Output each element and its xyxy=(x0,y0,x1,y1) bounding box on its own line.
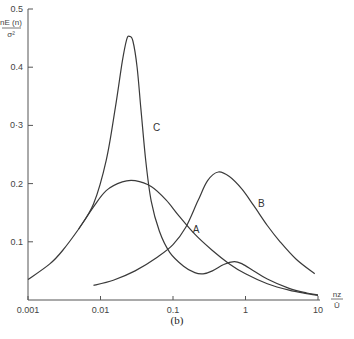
panel-label: (b) xyxy=(171,314,184,327)
curves xyxy=(28,36,318,295)
curve-label-b: B xyxy=(258,198,265,209)
y-tick-label: 0.2 xyxy=(10,179,23,189)
y-tick-label: 0·3 xyxy=(10,120,23,130)
curve-a xyxy=(28,180,318,295)
y-axis-title-denominator: σ² xyxy=(7,30,15,39)
x-tick-label: 1 xyxy=(243,305,248,315)
curve-c xyxy=(79,36,318,295)
x-tick-label: 0.001 xyxy=(17,305,40,315)
y-axis-title-numerator: nE (n) xyxy=(0,18,22,27)
y-tick-label: 0.1 xyxy=(10,237,23,247)
x-tick-label: 0.01 xyxy=(92,305,110,315)
chart: 0.10.20·30.40.50.0010.010.1110 nE (n)σ²n… xyxy=(0,0,354,339)
x-tick-label: 10 xyxy=(313,305,323,315)
y-tick-label: 0.5 xyxy=(10,4,23,14)
y-tick-label: 0.4 xyxy=(10,62,23,72)
labels: nE (n)σ²nzŪABC(b) xyxy=(0,18,343,327)
curve-b xyxy=(94,172,315,286)
curve-label-c: C xyxy=(153,122,160,133)
x-axis-title-denominator: Ū xyxy=(334,301,340,310)
curve-label-a: A xyxy=(193,224,200,235)
axes: 0.10.20·30.40.50.0010.010.1110 xyxy=(10,4,323,315)
x-axis-title-numerator: nz xyxy=(333,290,341,299)
